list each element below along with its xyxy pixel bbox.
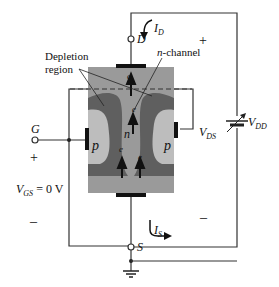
is-label: IS: [153, 223, 162, 239]
electron-label: e: [127, 71, 131, 81]
drain-terminal: [128, 36, 134, 42]
plus-left: +: [30, 150, 38, 165]
n-channel-label: n-channel: [157, 46, 200, 58]
source-terminal: [128, 244, 134, 250]
electron-label: e: [119, 144, 123, 154]
gate-junction-dot: [67, 138, 71, 142]
gate-contact-left: [85, 128, 89, 150]
electron-label: e: [132, 104, 136, 114]
gate-label: G: [31, 122, 40, 136]
drain-label: D: [136, 32, 146, 46]
vdd-label: VDD: [248, 115, 267, 131]
vds-label: VDS: [199, 125, 216, 141]
minus-right: –: [199, 210, 208, 225]
electron-label: e: [138, 152, 142, 162]
n-label: n: [124, 127, 130, 141]
vgs-label: VGS = 0 V: [16, 182, 64, 198]
depletion-label-1: Depletion: [45, 50, 89, 62]
depletion-label-2: region: [45, 63, 74, 75]
minus-left: –: [29, 214, 38, 229]
source-contact: [116, 193, 146, 197]
p-right-label: p: [163, 138, 171, 153]
drain-contact: [116, 64, 146, 68]
gate-contact-right: [174, 122, 178, 138]
p-left-label: p: [91, 138, 99, 153]
jfet-diagram: D G S Depletion region n-channel p p n e…: [0, 0, 279, 287]
source-label: S: [137, 240, 143, 254]
gate-terminal: [32, 137, 38, 143]
id-label: ID: [153, 21, 164, 37]
plus-right: +: [199, 33, 207, 48]
ground-icon: [123, 271, 139, 277]
